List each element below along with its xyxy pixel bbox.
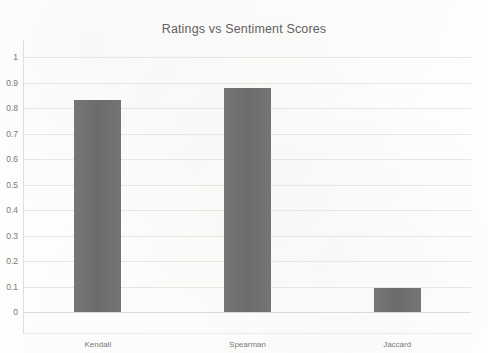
- bar-jaccard: [374, 288, 421, 312]
- plot-bottom-border: [23, 333, 472, 334]
- bar-kendall: [74, 100, 121, 312]
- y-axis-tick-label: 0.8: [6, 103, 18, 113]
- y-axis-tick-label: 0.5: [6, 180, 18, 190]
- y-axis-tick-label: 1: [13, 52, 18, 62]
- plot-area: 00.10.20.30.40.50.60.70.80.91 KendallSpe…: [23, 40, 472, 334]
- y-axis-tick-label: 0.2: [6, 256, 18, 266]
- y-axis-tick-label: 0.7: [6, 129, 18, 139]
- chart-title: Ratings vs Sentiment Scores: [0, 22, 488, 36]
- bar-spearman: [224, 88, 271, 312]
- y-axis-line: [23, 40, 24, 334]
- y-axis-tick-label: 0: [13, 307, 18, 317]
- y-axis-tick-label: 0.9: [6, 78, 18, 88]
- x-axis-tick-label: Spearman: [229, 340, 266, 349]
- gridline: [24, 57, 471, 58]
- y-axis-tick-label: 0.3: [6, 231, 18, 241]
- x-axis-tick-label: Jaccard: [383, 340, 411, 349]
- y-axis-tick-label: 0.4: [6, 205, 18, 215]
- gridline: [24, 312, 471, 313]
- y-axis-tick-label: 0.1: [6, 282, 18, 292]
- gridline: [24, 83, 471, 84]
- bar-chart-figure: Ratings vs Sentiment Scores 00.10.20.30.…: [0, 0, 488, 353]
- y-axis-tick-label: 0.6: [6, 154, 18, 164]
- x-axis-tick-label: Kendall: [84, 340, 111, 349]
